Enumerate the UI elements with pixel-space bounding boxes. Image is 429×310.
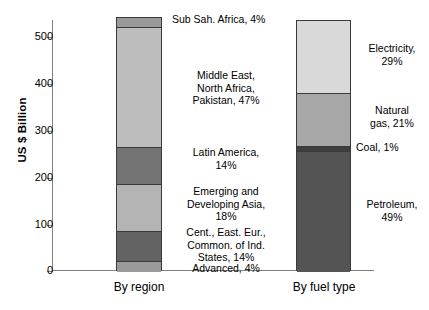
y-tick-label-500: 500 [9,31,53,42]
label-middle-east-north-africa-pakistan: Middle East, North Africa, Pakistan, 47% [172,69,280,107]
label-natural-gas: Natural gas, 21% [356,104,428,129]
label-petroleum: Petroleum, 49% [356,198,428,223]
segment-sub-sah-africa[interactable] [117,18,161,28]
label-advanced: Advanced, 4% [172,262,280,275]
segment-electricity[interactable] [297,21,350,94]
y-tick-label-200: 200 [9,172,53,183]
bar-by-fuel-type[interactable] [296,20,351,271]
segment-advanced[interactable] [117,262,161,272]
y-axis-line [52,20,53,271]
label-latin-america: Latin America, 14% [172,146,280,171]
label-coal: Coal, 1% [356,141,428,154]
segment-natural-gas[interactable] [297,94,350,147]
label-sub-sah-africa: Sub Sah. Africa, 4% [172,13,282,26]
segment-emerging-developing-asia[interactable] [117,185,161,232]
y-tick-label-100: 100 [9,219,53,230]
label-cent-east-eur-cis: Cent., East. Eur., Common. of Ind. State… [172,226,280,264]
category-label-by-region: By region [95,280,183,294]
label-electricity: Electricity, 29% [356,42,428,67]
segment-cent-east-eur-cis[interactable] [117,232,161,262]
label-emerging-developing-asia: Emerging and Developing Asia, 18% [172,185,280,223]
segment-latin-america[interactable] [117,148,161,185]
y-tick-label-0: 0 [9,265,53,276]
stacked-bar-chart: US $ Billion 0 100 200 300 400 500 Sub S… [0,0,429,310]
category-label-by-fuel-type: By fuel type [280,280,368,294]
segment-petroleum[interactable] [297,152,350,272]
y-tick-label-300: 300 [9,125,53,136]
segment-middle-east-north-africa-pakistan[interactable] [117,28,161,148]
bar-by-region[interactable] [116,17,162,271]
y-tick-label-400: 400 [9,78,53,89]
